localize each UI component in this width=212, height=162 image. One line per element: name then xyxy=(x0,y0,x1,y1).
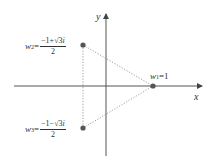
w3-numerator: −1−√3i xyxy=(40,120,66,130)
dotted-edge-w3-w1 xyxy=(83,86,153,128)
w3-denominator: 2 xyxy=(51,130,55,139)
w3-equals: = xyxy=(34,125,39,134)
w3-num-pre: −1− xyxy=(41,119,54,128)
w2-num-pre: −1+ xyxy=(41,36,54,45)
w3-fraction: −1−√3i 2 xyxy=(40,120,66,139)
w1-value: 1 xyxy=(164,72,169,81)
point-w3 xyxy=(80,125,85,130)
w2-equals: = xyxy=(34,42,39,51)
label-w1: w1=1 xyxy=(150,72,169,81)
w2-numerator: −1+√3i xyxy=(40,37,66,47)
w2-num-sqrt: √3 xyxy=(54,36,62,45)
x-axis-label: x xyxy=(194,92,198,102)
y-axis-label: y xyxy=(96,12,100,22)
point-w2 xyxy=(80,42,85,47)
w2-denominator: 2 xyxy=(51,47,55,56)
dotted-edge-w2-w1 xyxy=(83,45,153,86)
label-w2: w2= −1+√3i 2 xyxy=(25,37,66,56)
label-w3: w3= −1−√3i 2 xyxy=(25,120,66,139)
w3-num-sqrt: √3 xyxy=(54,119,62,128)
point-w1 xyxy=(150,83,155,88)
w2-fraction: −1+√3i 2 xyxy=(40,37,66,56)
w3-num-i: i xyxy=(63,119,65,128)
w2-num-i: i xyxy=(63,36,65,45)
